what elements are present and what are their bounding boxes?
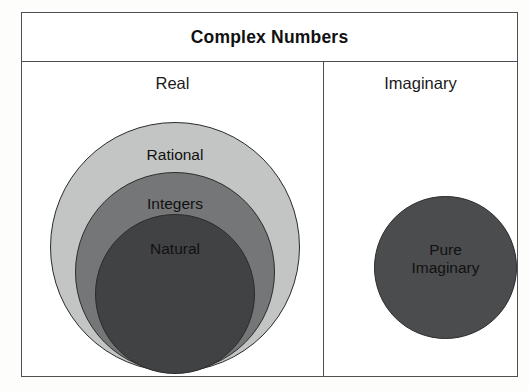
panel-real: Real Rational Integers Natural xyxy=(22,62,324,376)
panel-label-imaginary: Imaginary xyxy=(324,74,517,93)
set-label-rational: Rational xyxy=(51,147,299,164)
set-label-natural: Natural xyxy=(96,241,254,258)
complex-numbers-diagram: Complex Numbers Real Rational Integers N… xyxy=(0,0,529,391)
panel-imaginary: Imaginary Pure Imaginary xyxy=(324,62,517,376)
diagram-title-band: Complex Numbers xyxy=(22,13,517,62)
set-label-pure-imaginary: Pure Imaginary xyxy=(375,241,516,277)
diagram-body: Real Rational Integers Natural Imaginary… xyxy=(22,62,517,376)
set-circle-pure-imaginary: Pure Imaginary xyxy=(374,196,517,339)
diagram-outer-frame: Complex Numbers Real Rational Integers N… xyxy=(21,12,518,377)
set-label-pure-imaginary-line1: Pure xyxy=(375,241,516,259)
set-label-integers: Integers xyxy=(76,196,274,213)
page-title: Complex Numbers xyxy=(191,27,349,48)
panel-label-real: Real xyxy=(22,74,323,93)
set-circle-natural: Natural xyxy=(95,214,255,374)
set-label-pure-imaginary-line2: Imaginary xyxy=(375,259,516,277)
